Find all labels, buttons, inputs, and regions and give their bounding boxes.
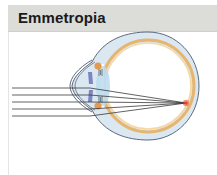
lens xyxy=(96,66,110,106)
emmetropia-eye-diagram xyxy=(0,0,217,175)
eyeball xyxy=(72,32,199,140)
focal-point xyxy=(183,100,189,106)
retina xyxy=(105,43,191,129)
